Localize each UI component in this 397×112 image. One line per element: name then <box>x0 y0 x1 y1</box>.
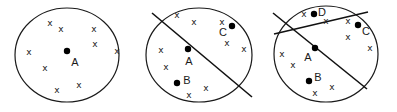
cross-marker-icon: x <box>91 24 97 34</box>
cross-marker-icon: x <box>312 88 318 98</box>
cross-marker-icon: x <box>367 43 373 53</box>
cross-marker-icon: x <box>76 80 82 90</box>
cross-marker-icon: x <box>345 32 351 42</box>
partition-line <box>152 13 252 97</box>
cross-marker-icon: x <box>186 90 192 100</box>
panel-2: xxxxxxxxxCAB <box>146 8 252 102</box>
point-c-dot <box>355 22 361 28</box>
cross-marker-icon: x <box>26 47 32 57</box>
cross-marker-icon: x <box>114 46 120 56</box>
panel-1: xxxxxxxxxA <box>15 8 120 102</box>
point-b-dot <box>306 78 312 84</box>
cross-marker-icon: x <box>163 62 169 72</box>
cross-marker-icon: x <box>47 18 53 28</box>
cross-marker-icon: x <box>279 49 285 59</box>
cross-marker-icon: x <box>241 44 247 54</box>
partition-diagram: xxxxxxxxxAxxxxxxxxxCABxxxxxxxxxDCAB <box>0 0 397 112</box>
point-label: C <box>362 25 370 37</box>
point-label: B <box>183 74 190 86</box>
cross-marker-icon: x <box>54 85 60 95</box>
cross-marker-icon: x <box>174 10 180 20</box>
cross-marker-icon: x <box>290 60 296 70</box>
cross-marker-icon: x <box>42 63 48 73</box>
cross-marker-icon: x <box>92 39 98 49</box>
cross-marker-icon: x <box>329 82 335 92</box>
point-d-dot <box>311 11 317 17</box>
cross-marker-icon: x <box>345 16 351 26</box>
point-c-dot <box>229 23 235 29</box>
cross-marker-icon: x <box>158 45 164 55</box>
point-label: D <box>318 6 326 18</box>
point-label: A <box>185 55 193 67</box>
cross-marker-icon: x <box>301 9 307 19</box>
point-label: C <box>219 26 227 38</box>
cross-marker-icon: x <box>203 83 209 93</box>
point-label: B <box>314 71 321 83</box>
panel-3: xxxxxxxxxDCAB <box>273 6 378 102</box>
point-b-dot <box>174 80 180 86</box>
point-a-dot <box>64 48 70 54</box>
point-a-dot <box>312 45 318 51</box>
cross-marker-icon: x <box>58 24 64 34</box>
cross-marker-icon: x <box>224 38 230 48</box>
point-label: A <box>71 56 79 68</box>
cross-marker-icon: x <box>191 17 197 27</box>
point-label: A <box>304 51 312 63</box>
point-a-dot <box>185 46 191 52</box>
